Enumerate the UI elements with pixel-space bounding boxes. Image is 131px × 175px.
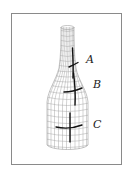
label-a: A [85,53,94,66]
label-c: C [93,118,102,131]
label-b: B [92,78,101,91]
bottle-opening [61,26,74,30]
bottle-mesh [46,27,89,151]
bottle-diagram: A B C [0,0,131,175]
